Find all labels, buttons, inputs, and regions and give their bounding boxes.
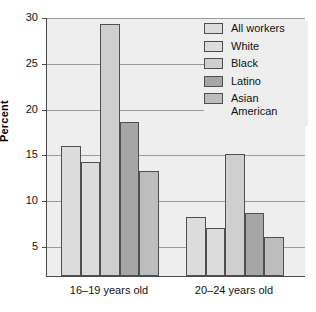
x-axis-tick-label: 20–24 years old [174, 284, 294, 296]
legend-label: Latino [231, 75, 261, 88]
bar [264, 237, 284, 276]
legend-swatch [204, 58, 223, 69]
bar [186, 217, 206, 276]
y-axis-tick [42, 201, 47, 202]
legend-label: White [231, 40, 259, 53]
gridline [47, 155, 305, 156]
legend-swatch [204, 76, 223, 87]
y-axis-tick-label: 15 [2, 148, 38, 160]
y-axis-tick [42, 155, 47, 156]
bar-chart: Percent 51015202530 16–19 years old20–24… [0, 0, 316, 312]
legend-swatch [204, 41, 223, 52]
y-axis-tick-label: 20 [2, 103, 38, 115]
y-axis-tick-labels: 51015202530 [0, 18, 46, 277]
y-axis-tick [42, 247, 47, 248]
legend-item[interactable]: Latino [204, 75, 308, 88]
legend-label: Black [231, 57, 258, 70]
bar [61, 146, 81, 276]
bar [225, 154, 245, 276]
y-axis-tick [42, 18, 47, 19]
y-axis-tick-label: 10 [2, 194, 38, 206]
legend-item[interactable]: Black [204, 57, 308, 70]
bar [245, 213, 265, 276]
bar [120, 122, 140, 276]
legend-item[interactable]: All workers [204, 22, 308, 35]
bar [206, 228, 226, 277]
bar [139, 171, 159, 276]
y-axis-tick [42, 110, 47, 111]
x-axis-tick-label: 16–19 years old [49, 284, 169, 296]
y-axis-tick [42, 64, 47, 65]
legend-item[interactable]: White [204, 40, 308, 53]
legend-label: All workers [231, 22, 285, 35]
legend: All workersWhiteBlackLatinoAsian America… [204, 20, 308, 126]
bar [100, 24, 120, 276]
y-axis-tick-label: 25 [2, 57, 38, 69]
legend-label: Asian American [231, 92, 277, 117]
gridline [47, 18, 305, 19]
bar [81, 162, 101, 276]
y-axis-tick-label: 5 [2, 240, 38, 252]
legend-item[interactable]: Asian American [204, 92, 308, 117]
legend-swatch [204, 23, 223, 34]
y-axis-tick-label: 30 [2, 11, 38, 23]
legend-swatch [204, 93, 223, 104]
